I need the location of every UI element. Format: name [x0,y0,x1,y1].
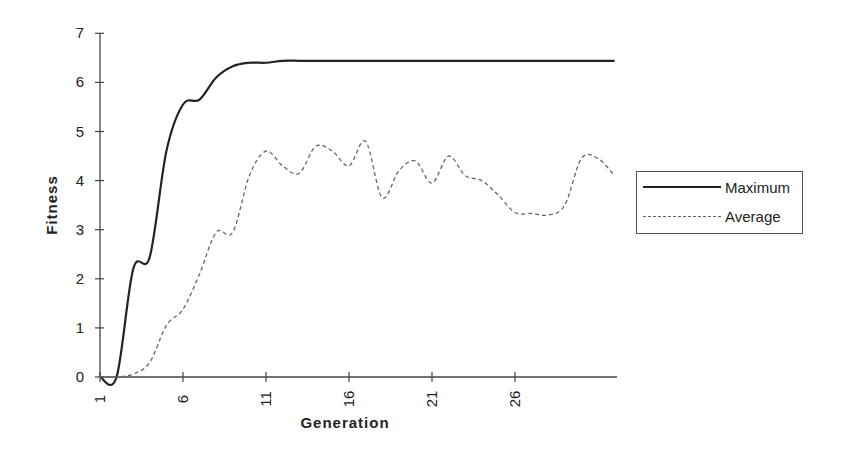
legend-label-maximum: Maximum [725,179,790,196]
y-tick-label: 7 [76,24,84,41]
dashed-line-swatch-icon [643,216,721,217]
y-tick-label: 4 [76,172,84,189]
x-tick-label: 6 [174,395,191,403]
y-tick-label: 2 [76,270,84,287]
legend: Maximum Average [636,171,803,234]
legend-label-average: Average [725,208,781,225]
x-tick-label: 21 [423,391,440,408]
x-tick-label: 16 [340,391,357,408]
series-average-line [100,141,615,378]
x-tick-label: 11 [257,391,274,407]
series-maximum-line [100,61,615,385]
solid-line-swatch-icon [643,186,721,188]
y-tick-label: 5 [76,123,84,140]
x-axis-title: Generation [300,414,389,431]
y-tick-label: 3 [76,221,84,238]
y-tick-label: 6 [76,73,84,90]
series-layer [100,61,615,385]
x-tick-label: 26 [506,391,523,408]
legend-item-average: Average [643,206,781,226]
y-tick-label: 0 [76,368,84,385]
y-tick-label: 1 [76,319,84,336]
x-tick-label: 1 [91,395,108,403]
legend-item-maximum: Maximum [643,177,790,197]
y-axis-title: Fitness [43,175,60,235]
